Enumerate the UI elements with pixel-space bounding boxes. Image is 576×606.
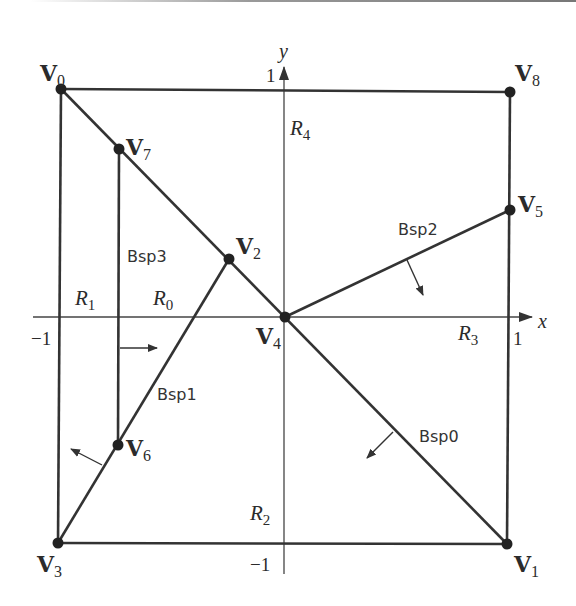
- region-r2-label: R2: [249, 501, 270, 528]
- bsp3-label: Bsp3: [127, 247, 167, 266]
- edge-v1-v3: [58, 543, 507, 544]
- y-axis-label: y: [277, 40, 288, 63]
- vertex-v4-dot: [280, 312, 291, 323]
- bsp2-label: Bsp2: [398, 220, 438, 239]
- vertex-v7-label: V7: [125, 134, 151, 163]
- bsp3-line: [118, 149, 119, 445]
- bsp2-normal-arrow-icon: [407, 260, 423, 295]
- vertex-v6-dot: [113, 440, 124, 451]
- x-axis-label: x: [537, 310, 547, 332]
- x-tick-neg-one: −1: [31, 328, 51, 349]
- region-r0-label: R0: [152, 286, 173, 313]
- axis-labels: x y −1 1 1 −1: [31, 40, 547, 575]
- vertex-v8-label: V8: [514, 60, 540, 89]
- vertex-v2-label: V2: [235, 233, 261, 262]
- vertex-v7-dot: [114, 144, 125, 155]
- region-r4-label: R4: [289, 116, 311, 143]
- region-r3-label: R3: [457, 321, 478, 348]
- region-r1-label: R1: [74, 286, 95, 313]
- region-labels: R0 R1 R2 R3 R4: [74, 116, 478, 528]
- vertex-v6-label: V6: [125, 435, 151, 464]
- vertex-v2-dot: [224, 254, 235, 265]
- vertex-v0-label: V0: [39, 60, 65, 89]
- bsp1-normal-arrow-icon: [71, 449, 102, 465]
- vertex-v5-label: V5: [517, 191, 543, 220]
- bsp-diagram: V0 V1 V2 V3 V4 V5 V6 V7 V8 R0 R1 R2 R3 R…: [0, 0, 576, 606]
- vertex-v8-dot: [505, 87, 516, 98]
- bsp0-label: Bsp0: [419, 427, 459, 446]
- vertex-v1-label: V1: [513, 551, 539, 580]
- vertex-v1-dot: [502, 539, 513, 550]
- splitter-labels: Bsp0 Bsp1 Bsp2 Bsp3: [127, 220, 459, 446]
- vertex-v3-label: V3: [36, 551, 62, 580]
- vertex-v3-dot: [53, 538, 64, 549]
- bsp1-label: Bsp1: [157, 385, 197, 404]
- y-tick-pos-one: 1: [266, 65, 276, 86]
- x-tick-pos-one: 1: [513, 328, 523, 349]
- vertex-v5-dot: [505, 205, 516, 216]
- vertex-v4-label: V4: [255, 323, 281, 352]
- edge-v8-v1: [507, 92, 510, 544]
- bsp0-normal-arrow-icon: [367, 432, 393, 458]
- y-tick-neg-one: −1: [250, 554, 270, 575]
- edge-v0-v8: [61, 89, 510, 92]
- edge-v3-v0: [58, 89, 61, 543]
